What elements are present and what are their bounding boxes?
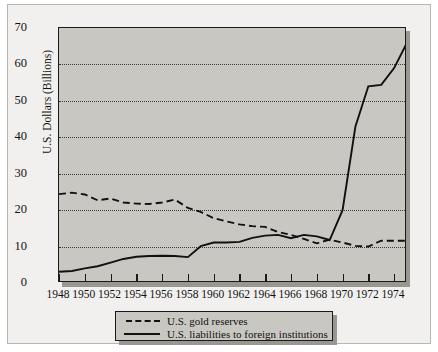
x-tick-label: 1972 (356, 288, 379, 300)
x-tick-label: 1960 (201, 288, 224, 300)
x-tick-label: 1974 (382, 288, 405, 300)
x-tick-label: 1948 (47, 288, 70, 300)
x-tick-label: 1952 (98, 288, 121, 300)
legend-label: U.S. gold reserves (167, 315, 248, 327)
chart-figure: U.S. Dollars (Billions) 010203040506070 … (0, 0, 438, 352)
x-tick-label: 1970 (330, 288, 353, 300)
series-line (59, 193, 406, 247)
dashed-line-swatch-icon (122, 315, 162, 326)
legend-label: U.S. liabilities to foreign institutions (167, 328, 328, 340)
chart-legend: U.S. gold reserves U.S. liabilities to f… (115, 311, 333, 341)
x-tick-label: 1964 (253, 288, 276, 300)
plot-area (58, 27, 406, 282)
x-tick-label: 1968 (304, 288, 327, 300)
solid-line-swatch-icon (122, 328, 162, 339)
series-lines (59, 28, 406, 282)
x-tick-label: 1950 (72, 288, 95, 300)
legend-entry-gold-reserves: U.S. gold reserves (122, 314, 326, 327)
x-tick-label: 1962 (227, 288, 250, 300)
series-line (59, 43, 406, 272)
x-tick-label: 1966 (279, 288, 302, 300)
x-tick-label: 1958 (175, 288, 198, 300)
legend-entry-foreign-liabilities: U.S. liabilities to foreign institutions (122, 327, 326, 340)
x-tick-label: 1956 (150, 288, 173, 300)
x-tick-label: 1954 (124, 288, 147, 300)
